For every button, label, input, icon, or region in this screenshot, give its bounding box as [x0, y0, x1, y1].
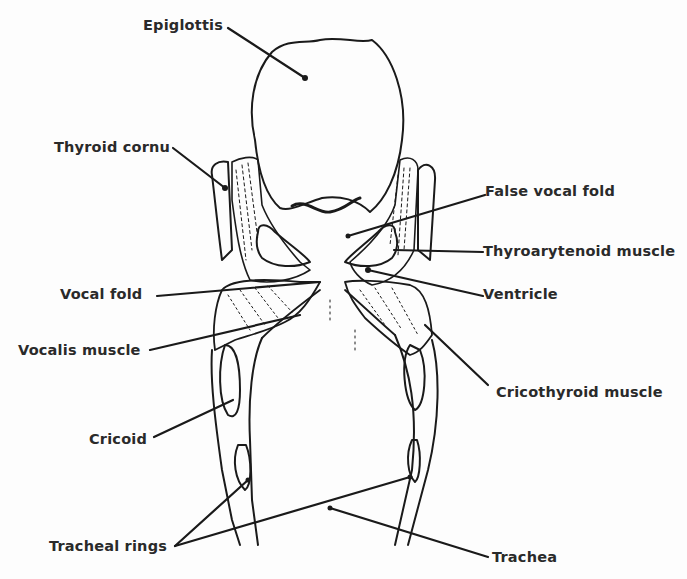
label-vocal-fold: Vocal fold: [60, 286, 142, 302]
label-epiglottis: Epiglottis: [143, 17, 223, 33]
label-false-vocal-fold: False vocal fold: [485, 183, 615, 199]
label-ventricle: Ventricle: [483, 286, 558, 302]
larynx-diagram: Epiglottis Thyroid cornu False vocal fol…: [0, 0, 687, 579]
label-cricoid: Cricoid: [89, 431, 147, 447]
label-trachea: Trachea: [492, 549, 557, 565]
label-vocalis-muscle: Vocalis muscle: [18, 342, 141, 358]
label-thyroarytenoid-muscle: Thyroarytenoid muscle: [483, 243, 675, 259]
thyroid-cornu-left: [212, 162, 232, 260]
label-tracheal-rings: Tracheal rings: [49, 538, 167, 554]
label-thyroid-cornu: Thyroid cornu: [54, 139, 170, 155]
label-cricothyroid-muscle: Cricothyroid muscle: [496, 384, 663, 400]
epiglottis-shape: [252, 39, 403, 212]
left-tracheal-wall: [212, 350, 240, 545]
leader-lines: [150, 28, 488, 557]
